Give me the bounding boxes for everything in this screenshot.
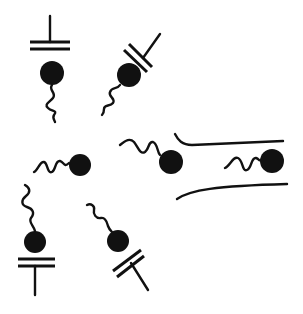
ligand-tail	[120, 140, 160, 155]
ligand-head	[260, 149, 284, 173]
ligand-receptor-complex-top-middle	[102, 34, 160, 115]
diagram-canvas	[0, 0, 303, 314]
ligand-tail	[22, 185, 35, 231]
channel-top-wall	[175, 134, 283, 145]
ligand-head	[117, 63, 141, 87]
ligand-entering-channel	[120, 140, 183, 174]
ligand-tail	[87, 204, 112, 232]
ligand-receptor-complex-bottom-middle	[87, 204, 148, 290]
ligand-head	[107, 230, 129, 252]
channel-bottom-wall	[177, 184, 287, 199]
ligand-inside-channel	[225, 149, 284, 173]
ligand-head	[159, 150, 183, 174]
ligand-head	[69, 154, 91, 176]
ligand-tail	[47, 85, 56, 122]
ligand-receptor-complex-top-left	[30, 16, 70, 122]
ligand-tail	[102, 85, 120, 115]
ligand-receptor-complex-bottom-left	[18, 185, 55, 295]
receptor-stem	[143, 34, 160, 58]
ligand-head	[24, 231, 46, 253]
ligand-head	[40, 61, 64, 85]
ligand-tail	[225, 158, 260, 170]
free-ligand-left	[34, 154, 91, 176]
ligand-tail	[34, 161, 69, 172]
receptor-stem	[131, 263, 148, 290]
